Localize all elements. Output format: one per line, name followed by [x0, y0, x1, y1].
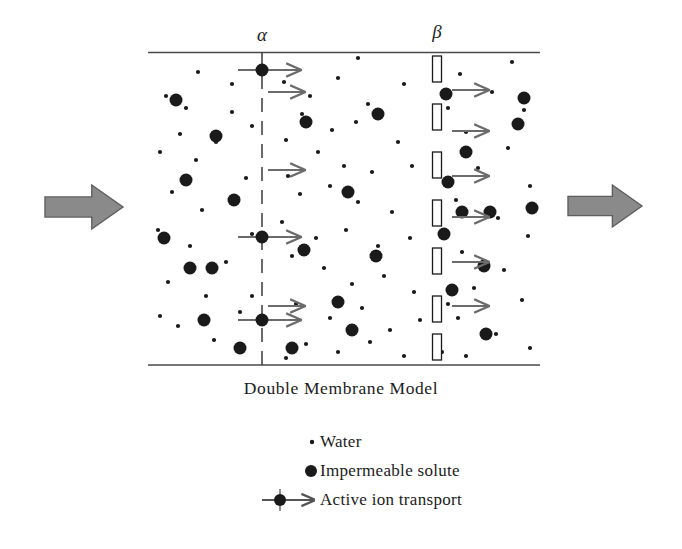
water-particle [284, 356, 288, 360]
solute-particle [526, 202, 539, 215]
transport-arrows-beta-group [452, 90, 488, 306]
water-particle [250, 232, 254, 236]
solute-particle [372, 108, 385, 121]
solute-particle [228, 194, 241, 207]
water-particle [290, 254, 294, 258]
bulk-flow-arrow-inflow [45, 185, 123, 229]
membrane-beta-segment [433, 152, 442, 178]
water-particle [286, 174, 290, 178]
water-particle [322, 266, 326, 270]
water-particle [280, 220, 284, 224]
water-particle [356, 200, 360, 204]
solute-particle [286, 342, 299, 355]
water-particle [460, 250, 464, 254]
water-particle [502, 268, 506, 272]
solute-particle [300, 116, 313, 129]
membrane-beta-segment [433, 296, 442, 322]
solute-particle [234, 342, 247, 355]
water-particle [204, 294, 208, 298]
solute-particle [342, 186, 355, 199]
water-marker-icon [258, 429, 320, 455]
water-particle [282, 80, 286, 84]
water-particle [360, 306, 364, 310]
solute-particle [198, 314, 211, 327]
legend-item-active-ion-transport: Active ion transport [258, 485, 588, 514]
water-particle [304, 342, 308, 346]
water-particle [472, 286, 476, 290]
membrane-beta-segment [433, 334, 442, 360]
water-particle [454, 198, 458, 202]
solute-particle [440, 88, 453, 101]
water-particle [184, 106, 188, 110]
active-transport-ion [256, 64, 269, 77]
water-particle [196, 70, 200, 74]
water-particle [194, 158, 198, 162]
water-particle [200, 208, 204, 212]
water-particle [458, 72, 462, 76]
water-particle [446, 302, 450, 306]
water-particle [330, 128, 334, 132]
solute-particle [480, 328, 493, 341]
water-particle [328, 316, 332, 320]
water-particle [408, 236, 412, 240]
water-particle [370, 170, 374, 174]
membrane-beta-segment [433, 248, 442, 274]
water-particle [366, 102, 370, 106]
water-particle [350, 282, 354, 286]
water-particle [230, 82, 234, 86]
solute-particle [180, 174, 193, 187]
water-particle [526, 234, 530, 238]
water-particle [528, 184, 532, 188]
water-particle [506, 146, 510, 150]
water-particle [336, 350, 340, 354]
solute-particle [298, 244, 311, 257]
active-transport-ion [256, 231, 269, 244]
water-particle [396, 140, 400, 144]
water-particle [342, 164, 346, 168]
water-particle [166, 280, 170, 284]
water-particle [446, 106, 450, 110]
water-particle [388, 328, 392, 332]
legend-item-impermeable-solute: Impermeable solute [258, 456, 588, 485]
water-particle [328, 184, 332, 188]
solute-particle [446, 284, 459, 297]
water-particle [250, 124, 254, 128]
water-particle [476, 166, 480, 170]
water-particle [354, 120, 358, 124]
membrane-beta [433, 56, 442, 360]
water-particle [456, 316, 460, 320]
solute-particle [210, 130, 223, 143]
solute-particle [518, 92, 531, 105]
solute-particle [460, 146, 473, 159]
transport-arrows-alpha-group [268, 92, 304, 306]
water-particle [356, 56, 360, 60]
legend: Water Impermeable solute [258, 427, 588, 514]
water-particle [212, 338, 216, 342]
membrane-beta-segment [433, 104, 442, 130]
water-particle [176, 324, 180, 328]
legend-label-water: Water [320, 432, 362, 452]
water-particle [238, 310, 242, 314]
water-particle [490, 90, 494, 94]
water-particle [402, 82, 406, 86]
solute-particle [346, 324, 359, 337]
water-particle [412, 290, 416, 294]
water-particle [156, 228, 160, 232]
water-particle [522, 108, 526, 112]
legend-label-active-ion-transport: Active ion transport [320, 490, 462, 510]
water-particle [164, 94, 168, 98]
water-particle [298, 192, 302, 196]
membrane-beta-segment [433, 56, 442, 82]
water-particle [382, 274, 386, 278]
water-particle [224, 260, 228, 264]
solute-particle [206, 262, 219, 275]
water-particle [336, 76, 340, 80]
water-particle [390, 210, 394, 214]
water-particle [510, 60, 514, 64]
water-particle [494, 332, 498, 336]
solute-marker-icon [258, 458, 320, 484]
figure-caption: Double Membrane Model [0, 378, 682, 399]
water-particle [300, 112, 304, 116]
water-particle [308, 94, 312, 98]
legend-item-water: Water [258, 427, 588, 456]
